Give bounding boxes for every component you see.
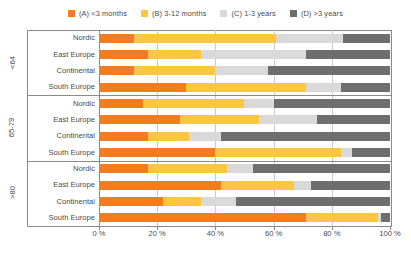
x-tick-label: 100 % <box>379 229 401 238</box>
bar-segment[interactable] <box>143 99 245 108</box>
bar-row[interactable] <box>99 34 390 43</box>
category-label: Continental <box>9 197 99 206</box>
bar-segment[interactable] <box>134 66 215 75</box>
bar-segment[interactable] <box>341 148 353 157</box>
category-label: Nordic <box>9 33 99 42</box>
bar-segment[interactable] <box>317 115 390 124</box>
legend-label-c: (C) 1-3 years <box>231 9 275 18</box>
group-label: <64 <box>0 58 24 67</box>
legend-swatch-c <box>220 10 227 17</box>
legend-swatch-d <box>290 10 297 17</box>
bar-segment[interactable] <box>341 83 390 92</box>
bar-segment[interactable] <box>352 148 390 157</box>
bar-row[interactable] <box>99 213 390 222</box>
bar-segment[interactable] <box>99 181 221 190</box>
category-label: Continental <box>9 66 99 75</box>
legend-item-c: (C) 1-3 years <box>220 9 275 18</box>
category-label: Nordic <box>9 164 99 173</box>
bar-segment[interactable] <box>343 34 390 43</box>
bar-segment[interactable] <box>236 197 390 206</box>
bar-segment[interactable] <box>215 66 267 75</box>
bar-row[interactable] <box>99 83 390 92</box>
bar-segment[interactable] <box>189 132 221 141</box>
category-label: Nordic <box>9 99 99 108</box>
bar-segment[interactable] <box>99 115 180 124</box>
bar-segment[interactable] <box>306 83 341 92</box>
bar-segment[interactable] <box>148 164 227 173</box>
category-label: South Europe <box>9 82 99 91</box>
bar-segment[interactable] <box>227 164 253 173</box>
x-tick-label: 20 % <box>149 229 166 238</box>
x-tick-label: 40 % <box>207 229 224 238</box>
bar-segment[interactable] <box>99 83 186 92</box>
bar-segment[interactable] <box>294 181 311 190</box>
bar-row[interactable] <box>99 181 390 190</box>
bar-segment[interactable] <box>186 83 305 92</box>
bar-segment[interactable] <box>311 181 390 190</box>
chart-legend: (A) <3 months (B) 3-12 months (C) 1-3 ye… <box>0 9 411 18</box>
category-label: Continental <box>9 131 99 140</box>
category-label: South Europe <box>9 213 99 222</box>
bar-row[interactable] <box>99 132 390 141</box>
legend-item-a: (A) <3 months <box>68 9 127 18</box>
bar-row[interactable] <box>99 66 390 75</box>
x-tick-label: 80 % <box>323 229 340 238</box>
bar-segment[interactable] <box>244 99 273 108</box>
bar-segment[interactable] <box>253 164 390 173</box>
bar-segment[interactable] <box>180 115 259 124</box>
bar-segment[interactable] <box>201 197 236 206</box>
bar-row[interactable] <box>99 164 390 173</box>
bar-row[interactable] <box>99 50 390 59</box>
x-tick-label: 0 % <box>92 229 105 238</box>
category-label: South Europe <box>9 148 99 157</box>
bar-segment[interactable] <box>99 132 148 141</box>
bar-segment[interactable] <box>381 213 390 222</box>
bar-segment[interactable] <box>221 132 390 141</box>
bar-segment[interactable] <box>215 148 340 157</box>
legend-item-b: (B) 3-12 months <box>141 9 207 18</box>
bar-segment[interactable] <box>274 99 390 108</box>
legend-item-d: (D) >3 years <box>290 9 343 18</box>
bar-segment[interactable] <box>268 66 390 75</box>
group-label: 65-79 <box>0 123 24 132</box>
bar-segment[interactable] <box>148 50 200 59</box>
legend-swatch-a <box>68 10 75 17</box>
legend-label-a: (A) <3 months <box>79 9 127 18</box>
bar-segment[interactable] <box>276 34 343 43</box>
bar-segment[interactable] <box>99 50 148 59</box>
bar-segment[interactable] <box>99 34 134 43</box>
label-column-border <box>27 30 99 31</box>
bar-segment[interactable] <box>163 197 201 206</box>
bar-segment[interactable] <box>221 181 294 190</box>
bar-row[interactable] <box>99 115 390 124</box>
bars-area <box>99 30 390 226</box>
x-tick-label: 60 % <box>265 229 282 238</box>
bar-segment[interactable] <box>99 66 134 75</box>
bar-segment[interactable] <box>148 132 189 141</box>
bar-segment[interactable] <box>99 148 215 157</box>
group-label: >80 <box>0 188 24 197</box>
bar-row[interactable] <box>99 148 390 157</box>
bar-row[interactable] <box>99 197 390 206</box>
group-column-border <box>27 30 28 226</box>
bar-segment[interactable] <box>99 99 143 108</box>
bar-segment[interactable] <box>99 213 306 222</box>
legend-label-d: (D) >3 years <box>301 9 343 18</box>
legend-label-b: (B) 3-12 months <box>152 9 207 18</box>
bar-segment[interactable] <box>99 197 163 206</box>
bar-segment[interactable] <box>201 50 306 59</box>
bar-segment[interactable] <box>259 115 317 124</box>
x-axis-tick-labels: 0 %20 %40 %60 %80 %100 % <box>0 229 411 243</box>
bar-segment[interactable] <box>306 50 390 59</box>
stacked-bar-chart: (A) <3 months (B) 3-12 months (C) 1-3 ye… <box>0 0 411 255</box>
bar-segment[interactable] <box>306 213 379 222</box>
bar-row[interactable] <box>99 99 390 108</box>
bar-segment[interactable] <box>134 34 277 43</box>
bar-segment[interactable] <box>99 164 148 173</box>
label-column-border <box>27 226 99 227</box>
legend-swatch-b <box>141 10 148 17</box>
